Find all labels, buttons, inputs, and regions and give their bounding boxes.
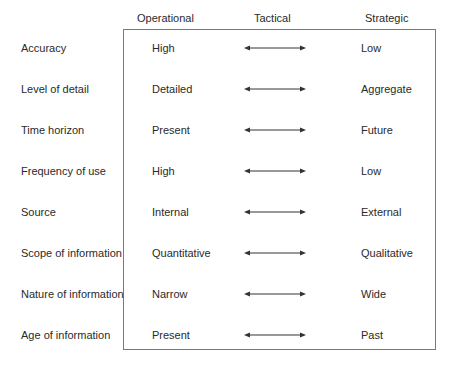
strategic-value: Future [361, 123, 393, 137]
operational-value: Narrow [152, 287, 187, 301]
double-arrow-icon [244, 126, 306, 134]
strategic-value: Low [361, 164, 381, 178]
double-arrow-icon [244, 167, 306, 175]
operational-value: Present [152, 328, 190, 342]
strategic-value: Wide [361, 287, 386, 301]
row-nature-of-information: Nature of information Narrow Wide [0, 287, 455, 301]
row-label: Frequency of use [21, 164, 106, 178]
operational-value: High [152, 41, 175, 55]
double-arrow-icon [244, 44, 306, 52]
strategic-value: Aggregate [361, 82, 412, 96]
row-label: Accuracy [21, 41, 66, 55]
double-arrow-icon [244, 331, 306, 339]
header-tactical: Tactical [254, 11, 291, 25]
row-accuracy: Accuracy High Low [0, 41, 455, 55]
row-label: Source [21, 205, 56, 219]
double-arrow-icon [244, 208, 306, 216]
comparison-box [123, 29, 436, 350]
strategic-value: External [361, 205, 401, 219]
strategic-value: Past [361, 328, 383, 342]
strategic-value: Low [361, 41, 381, 55]
row-age-of-information: Age of information Present Past [0, 328, 455, 342]
row-level-of-detail: Level of detail Detailed Aggregate [0, 82, 455, 96]
strategic-value: Qualitative [361, 246, 413, 260]
row-time-horizon: Time horizon Present Future [0, 123, 455, 137]
header-operational: Operational [137, 11, 194, 25]
row-scope-of-information: Scope of information Quantitative Qualit… [0, 246, 455, 260]
header-strategic: Strategic [365, 11, 408, 25]
operational-value: High [152, 164, 175, 178]
row-label: Time horizon [21, 123, 84, 137]
row-label: Level of detail [21, 82, 89, 96]
row-label: Age of information [21, 328, 110, 342]
double-arrow-icon [244, 85, 306, 93]
operational-value: Present [152, 123, 190, 137]
row-frequency-of-use: Frequency of use High Low [0, 164, 455, 178]
row-label: Nature of information [21, 287, 124, 301]
row-source: Source Internal External [0, 205, 455, 219]
operational-value: Internal [152, 205, 189, 219]
double-arrow-icon [244, 249, 306, 257]
operational-value: Quantitative [152, 246, 211, 260]
double-arrow-icon [244, 290, 306, 298]
row-label: Scope of information [21, 246, 122, 260]
operational-value: Detailed [152, 82, 192, 96]
